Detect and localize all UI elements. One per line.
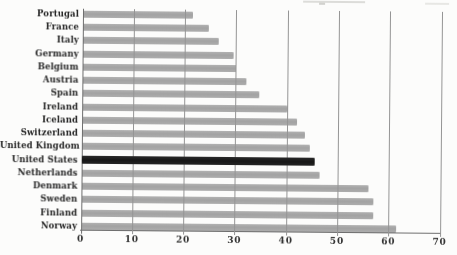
bar-spain <box>82 90 259 99</box>
x-tick-label-60: 60 <box>381 236 395 246</box>
bar-iceland <box>82 117 297 126</box>
gridline-70 <box>440 12 443 237</box>
category-label-ireland: Ireland <box>0 100 78 114</box>
bar-united-kingdom <box>82 143 310 152</box>
scan-artifact <box>303 1 365 4</box>
plot-area <box>1 0 457 2</box>
category-label-france: France <box>1 20 79 34</box>
gridline-60 <box>388 11 391 236</box>
category-label-portugal: Portugal <box>1 7 79 21</box>
category-label-denmark: Denmark <box>0 179 78 193</box>
bar-italy <box>83 37 219 45</box>
x-tick-label-10: 10 <box>125 234 139 244</box>
x-tick-label-30: 30 <box>227 235 241 245</box>
category-label-belgium: Belgium <box>0 60 78 74</box>
bar-austria <box>82 77 246 85</box>
scan-artifact <box>425 3 449 5</box>
x-tick-label-20: 20 <box>176 235 190 245</box>
bar-denmark <box>81 183 368 193</box>
category-label-switzerland: Switzerland <box>0 126 78 140</box>
category-label-germany: Germany <box>1 47 79 61</box>
category-label-united-kingdom: United Kingdom <box>0 139 78 153</box>
scan-artifact <box>319 3 325 5</box>
x-tick-label-50: 50 <box>330 236 344 246</box>
bar-belgium <box>82 64 236 72</box>
category-label-italy: Italy <box>1 33 79 47</box>
category-label-spain: Spain <box>0 86 78 100</box>
bar-sweden <box>81 196 373 206</box>
category-label-sweden: Sweden <box>0 192 77 206</box>
bar-france <box>83 24 209 32</box>
category-label-united-states: United States <box>0 153 78 167</box>
scanned-horizontal-bar-chart: 010203040506070PortugalFranceItalyGerman… <box>0 0 457 255</box>
category-label-netherlands: Netherlands <box>0 166 78 180</box>
bar-portugal <box>83 11 193 19</box>
bar-netherlands <box>82 170 321 179</box>
x-tick-label-40: 40 <box>279 235 293 245</box>
category-label-norway: Norway <box>0 219 77 233</box>
x-tick-label-70: 70 <box>432 237 446 247</box>
category-label-iceland: Iceland <box>0 113 78 127</box>
category-label-finland: Finland <box>0 206 77 220</box>
category-label-austria: Austria <box>0 73 78 87</box>
bar-finland <box>81 209 373 219</box>
bar-switzerland <box>82 130 305 139</box>
x-tick-label-0: 0 <box>77 234 84 244</box>
bar-united-states <box>82 156 315 166</box>
bar-germany <box>83 50 234 58</box>
